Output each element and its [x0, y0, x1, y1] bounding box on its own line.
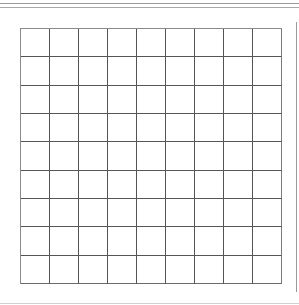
grid-cell[interactable]: [224, 86, 253, 114]
grid-cell[interactable]: [253, 256, 282, 284]
grid-cell[interactable]: [195, 227, 224, 255]
grid-cell[interactable]: [50, 57, 79, 85]
grid-cell[interactable]: [21, 256, 50, 284]
grid-cell[interactable]: [137, 171, 166, 199]
grid-cell[interactable]: [50, 171, 79, 199]
grid-cell[interactable]: [166, 86, 195, 114]
grid-cell[interactable]: [253, 29, 282, 57]
grid-cell[interactable]: [79, 227, 108, 255]
grid-cell[interactable]: [224, 29, 253, 57]
grid-cell[interactable]: [224, 199, 253, 227]
grid-cell[interactable]: [108, 114, 137, 142]
grid-cell[interactable]: [224, 142, 253, 170]
top-divider-line-secondary: [0, 7, 299, 8]
grid-cell[interactable]: [50, 29, 79, 57]
grid-cell[interactable]: [253, 199, 282, 227]
grid-cell[interactable]: [50, 199, 79, 227]
grid-cell[interactable]: [108, 29, 137, 57]
grid-cell[interactable]: [137, 114, 166, 142]
grid-cell[interactable]: [108, 199, 137, 227]
grid-cell[interactable]: [137, 86, 166, 114]
grid-cell[interactable]: [224, 171, 253, 199]
grid-cell[interactable]: [21, 114, 50, 142]
grid-cell[interactable]: [108, 57, 137, 85]
grid-cell[interactable]: [21, 86, 50, 114]
grid-cell[interactable]: [137, 199, 166, 227]
grid-cell[interactable]: [137, 142, 166, 170]
grid-cell[interactable]: [224, 256, 253, 284]
grid-cell[interactable]: [108, 142, 137, 170]
grid-cell[interactable]: [79, 57, 108, 85]
grid-cell[interactable]: [79, 256, 108, 284]
grid-cell[interactable]: [21, 227, 50, 255]
grid-cell[interactable]: [253, 171, 282, 199]
grid-cell[interactable]: [50, 256, 79, 284]
grid-cell[interactable]: [79, 114, 108, 142]
grid-cell[interactable]: [195, 114, 224, 142]
grid-cell[interactable]: [137, 29, 166, 57]
grid-cell[interactable]: [166, 114, 195, 142]
grid-cell[interactable]: [195, 57, 224, 85]
page-canvas: [0, 0, 299, 305]
grid-cell[interactable]: [253, 114, 282, 142]
grid-cell[interactable]: [137, 227, 166, 255]
right-edge-line: [296, 22, 297, 292]
grid-cell[interactable]: [166, 29, 195, 57]
grid-cell[interactable]: [195, 86, 224, 114]
grid-cell[interactable]: [21, 29, 50, 57]
grid-cell[interactable]: [195, 142, 224, 170]
grid-cell[interactable]: [166, 256, 195, 284]
grid-cell[interactable]: [224, 57, 253, 85]
grid-cell[interactable]: [166, 142, 195, 170]
grid-cell[interactable]: [253, 86, 282, 114]
grid-cell[interactable]: [21, 171, 50, 199]
grid-cell[interactable]: [195, 171, 224, 199]
grid-cell[interactable]: [21, 142, 50, 170]
grid-cell[interactable]: [108, 171, 137, 199]
grid-cell[interactable]: [224, 227, 253, 255]
grid-cell[interactable]: [137, 256, 166, 284]
grid-cell[interactable]: [79, 142, 108, 170]
grid-cell[interactable]: [108, 86, 137, 114]
grid-cell[interactable]: [195, 29, 224, 57]
grid-cell[interactable]: [50, 86, 79, 114]
grid-cell[interactable]: [224, 114, 253, 142]
top-divider-line: [0, 3, 299, 4]
blank-9x9-grid: [20, 28, 282, 284]
grid-cell[interactable]: [166, 227, 195, 255]
grid-cell[interactable]: [166, 171, 195, 199]
grid-cell[interactable]: [108, 227, 137, 255]
grid-cell[interactable]: [79, 86, 108, 114]
grid-cell[interactable]: [253, 227, 282, 255]
bottom-divider-line: [0, 303, 299, 304]
grid-cell[interactable]: [50, 114, 79, 142]
grid-cell[interactable]: [108, 256, 137, 284]
grid-cell[interactable]: [253, 142, 282, 170]
grid-cell[interactable]: [137, 57, 166, 85]
grid-cell[interactable]: [253, 57, 282, 85]
grid-cell[interactable]: [79, 171, 108, 199]
grid-cell[interactable]: [50, 142, 79, 170]
grid-cell[interactable]: [195, 199, 224, 227]
grid-cell[interactable]: [79, 199, 108, 227]
grid-cell[interactable]: [79, 29, 108, 57]
grid-cell[interactable]: [21, 199, 50, 227]
grid-cell[interactable]: [50, 227, 79, 255]
grid-cell[interactable]: [195, 256, 224, 284]
grid-cell[interactable]: [166, 199, 195, 227]
grid-cell[interactable]: [21, 57, 50, 85]
grid-cell[interactable]: [166, 57, 195, 85]
